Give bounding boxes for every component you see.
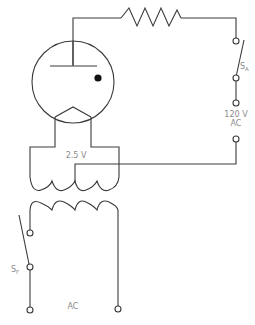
filament-voltage-label: 2.5 V <box>66 151 87 160</box>
supply-120v-top-terminal <box>233 100 239 106</box>
switch-f-blade <box>19 215 29 264</box>
tube-grid-dot <box>94 74 101 81</box>
transformer-primary-winding <box>30 201 118 210</box>
primary-ac-label: AC <box>68 302 79 311</box>
ac-right-terminal <box>115 306 121 312</box>
switch-a-blade <box>236 40 244 77</box>
ac-left-terminal <box>27 307 33 313</box>
filament-right-lead <box>91 117 119 177</box>
resistor-symbol <box>121 8 181 26</box>
switch-f-top-terminal <box>27 230 33 236</box>
switch-a-label: SA <box>240 62 249 72</box>
filament-left-lead <box>30 117 55 177</box>
return-wire <box>75 142 236 183</box>
switch-a-bottom-terminal <box>233 75 239 81</box>
supply-120v-bottom-terminal <box>233 136 239 142</box>
resistor-to-switch-wire <box>181 18 236 38</box>
supply-voltage-label: 120 V <box>224 110 248 119</box>
circuit-diagram: SA 120 V AC 2.5 V SF AC <box>0 0 255 325</box>
tube-filament <box>55 107 91 117</box>
switch-a-top-terminal <box>233 38 239 44</box>
switch-f-bottom-terminal <box>27 264 33 270</box>
supply-type-label: AC <box>231 119 242 128</box>
switch-f-label: SF <box>11 265 19 275</box>
